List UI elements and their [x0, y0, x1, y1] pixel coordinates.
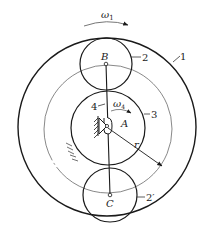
gear-train-diagram: ω1 ω4 B A C r 2 1 [0, 0, 215, 237]
part-3-label: 3 [151, 109, 157, 120]
point-B-marker [104, 62, 108, 66]
part-2-label: 2 [142, 52, 148, 63]
point-C-marker [108, 193, 112, 197]
point-A-label: A [120, 118, 128, 129]
part-2prime-label: 2′ [146, 192, 155, 203]
point-C-label: C [106, 198, 114, 209]
part-1-label: 1 [180, 51, 186, 62]
point-B-label: B [100, 51, 108, 62]
omega1-arrow-icon [84, 22, 128, 26]
ground-hatch-left-icon [66, 143, 78, 161]
ground-hatch-icon [94, 118, 98, 138]
omega1-label: ω1 [101, 9, 114, 22]
part-4-label: 4 [91, 101, 97, 112]
omega4-label: ω4 [113, 98, 125, 110]
